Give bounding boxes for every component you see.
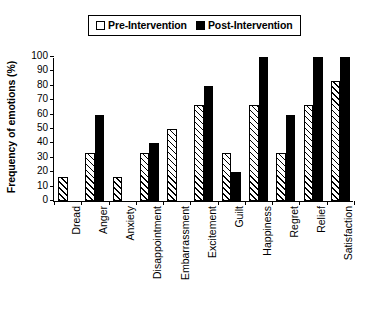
legend-swatch-hollow-square-icon	[96, 21, 105, 30]
x-tick-label: Excitement	[207, 206, 218, 310]
bar-post-intervention	[204, 86, 214, 201]
plot-area	[53, 58, 353, 202]
x-axis-tick-mark	[81, 201, 82, 205]
bar-pre-intervention	[304, 105, 314, 201]
x-axis-tick-mark	[54, 201, 55, 205]
legend-entry-pre-intervention: Pre-Intervention	[96, 20, 187, 31]
x-axis-tick-labels: DreadAngerAnxietyDisappointmentEmbarrass…	[53, 206, 353, 310]
bar-pre-intervention	[331, 81, 341, 201]
bar-pre-intervention	[222, 153, 232, 201]
bar-group	[81, 58, 108, 201]
plot-inner	[54, 58, 353, 201]
x-axis-tick-mark	[272, 201, 273, 205]
y-tick-label: 90	[37, 65, 48, 75]
legend-swatch-filled-square-icon	[196, 21, 205, 30]
bar-group	[163, 58, 190, 201]
chart-legend: Pre-Intervention Post-Intervention	[88, 15, 301, 36]
bar-post-intervention	[340, 57, 350, 201]
y-tick-label: 50	[37, 123, 48, 133]
chart-figure: Pre-Intervention Post-Intervention Frequ…	[0, 0, 381, 312]
y-tick-label: 0	[42, 195, 48, 205]
x-tick-label: Satisfaction	[343, 206, 354, 310]
bar-group	[136, 58, 163, 201]
y-tick-label: 70	[37, 94, 48, 104]
bar-pre-intervention	[194, 105, 204, 201]
x-tick-label: Anger	[98, 206, 109, 310]
x-axis-tick-mark	[190, 201, 191, 205]
y-tick-label: 10	[37, 181, 48, 191]
x-tick-label: Anxiety	[125, 206, 136, 310]
bar-group	[190, 58, 217, 201]
x-axis-tick-mark	[218, 201, 219, 205]
x-axis-tick-mark	[299, 201, 300, 205]
x-tick-label: Dread	[71, 206, 82, 310]
x-axis-tick-mark	[136, 201, 137, 205]
bar-post-intervention	[95, 115, 105, 201]
x-tick-label: Relief	[316, 206, 327, 310]
bar-post-intervention	[286, 115, 296, 201]
x-tick-label: Disappointment	[152, 206, 163, 310]
bar-post-intervention	[149, 143, 159, 201]
bar-pre-intervention	[140, 153, 150, 201]
bar-group	[218, 58, 245, 201]
y-axis-tick-labels: 0102030405060708090100	[22, 54, 48, 202]
bar-post-intervention	[231, 172, 241, 201]
bar-post-intervention	[259, 57, 269, 201]
x-axis-tick-mark	[327, 201, 328, 205]
bar-pre-intervention	[276, 153, 286, 201]
bar-group	[327, 58, 354, 201]
y-tick-label: 100	[31, 51, 48, 61]
y-tick-label: 60	[37, 109, 48, 119]
y-axis-tick-mark	[50, 56, 54, 57]
bar-post-intervention	[313, 57, 323, 201]
y-tick-label: 20	[37, 166, 48, 176]
y-axis-title-text: Frequency of emotions (%)	[5, 61, 17, 193]
x-tick-label: Happiness	[262, 206, 273, 310]
legend-label-post-intervention: Post-Intervention	[208, 20, 293, 31]
bar-pre-intervention	[85, 153, 95, 201]
bar-group	[272, 58, 299, 201]
bar-pre-intervention	[113, 177, 123, 201]
y-tick-label: 40	[37, 137, 48, 147]
bar-group	[245, 58, 272, 201]
x-tick-label: Embarrassment	[180, 206, 191, 310]
x-axis-tick-mark	[354, 201, 355, 205]
y-tick-label: 30	[37, 152, 48, 162]
bar-group	[299, 58, 326, 201]
x-tick-label: Guilt	[234, 206, 245, 310]
y-tick-label: 80	[37, 80, 48, 90]
legend-label-pre-intervention: Pre-Intervention	[108, 20, 187, 31]
bar-group	[54, 58, 81, 201]
x-axis-tick-mark	[245, 201, 246, 205]
bar-pre-intervention	[58, 177, 68, 201]
x-axis-tick-mark	[109, 201, 110, 205]
legend-entry-post-intervention: Post-Intervention	[196, 20, 293, 31]
bar-pre-intervention	[249, 105, 259, 201]
x-axis-tick-mark	[163, 201, 164, 205]
bar-group	[109, 58, 136, 201]
x-tick-label: Regret	[289, 206, 300, 310]
y-axis-title: Frequency of emotions (%)	[2, 52, 20, 202]
bar-pre-intervention	[167, 129, 177, 201]
